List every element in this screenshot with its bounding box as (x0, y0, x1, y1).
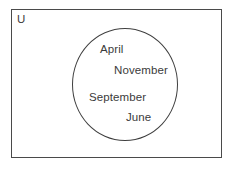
venn-diagram-canvas: U April November September June (0, 0, 233, 169)
set-member-november: November (114, 64, 168, 76)
set-circle (72, 28, 178, 141)
set-member-april: April (100, 43, 124, 55)
universal-set-label: U (17, 13, 25, 25)
set-member-september: September (89, 91, 146, 103)
set-member-june: June (126, 111, 151, 123)
